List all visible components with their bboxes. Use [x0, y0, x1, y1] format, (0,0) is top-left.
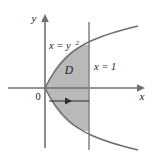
y-axis-arrowhead: [41, 14, 49, 22]
y-axis-label: y: [31, 12, 37, 24]
parabola-equation-label: x = y 2: [48, 39, 80, 52]
figure-container: y x 0 x = y 2 x = 1 D: [0, 0, 156, 156]
parabola-equation-exponent: 2: [76, 39, 80, 47]
x-axis-label: x: [139, 90, 145, 102]
region-plot-svg: y x 0 x = y 2 x = 1 D: [0, 0, 156, 156]
region-d-label: D: [64, 64, 74, 76]
y-axis: [41, 14, 49, 148]
origin-label: 0: [35, 91, 40, 102]
line-equation-label: x = 1: [93, 61, 116, 72]
parabola-equation-base: x = y: [48, 40, 71, 51]
